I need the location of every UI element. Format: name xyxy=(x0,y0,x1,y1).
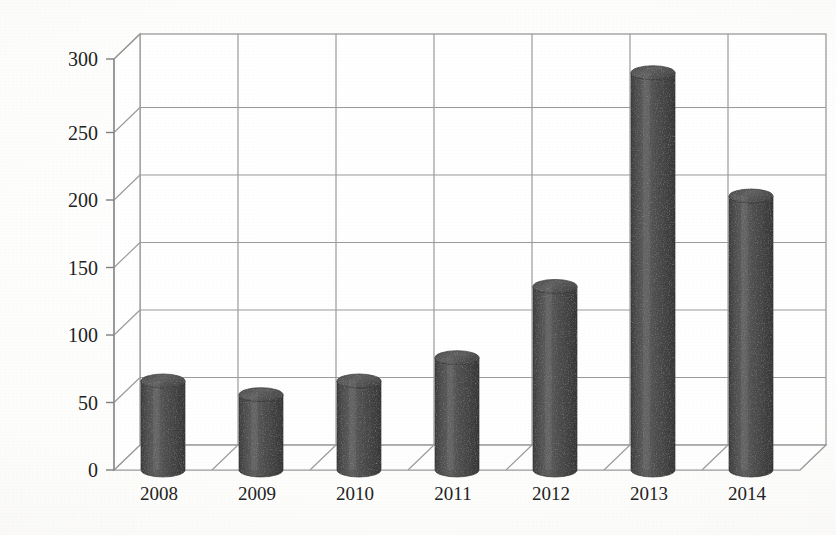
bar-cylinder xyxy=(435,351,479,477)
cylinder-top-cap xyxy=(631,66,675,80)
cylinder-body xyxy=(729,196,773,477)
y-axis-ticks xyxy=(106,59,114,470)
y-tick-label-150: 150 xyxy=(68,257,98,279)
cylinder-highlight xyxy=(741,196,748,470)
bar-cylinder xyxy=(337,374,381,477)
cylinder-highlight xyxy=(447,358,454,470)
cylinder-top-cap xyxy=(239,388,283,402)
y-tick-label-100: 100 xyxy=(68,324,98,346)
chart-figure: 0 50 100 150 200 250 300 200820092010201… xyxy=(0,0,836,535)
bar-cylinder xyxy=(729,189,773,477)
plot-back-wall xyxy=(140,34,826,445)
bar-cylinder xyxy=(141,374,185,477)
cylinder-highlight xyxy=(153,381,160,470)
x-tick-label: 2013 xyxy=(630,483,668,504)
y-axis-tick-labels: 0 50 100 150 200 250 300 xyxy=(68,48,98,481)
bar-chart-3d: 0 50 100 150 200 250 300 200820092010201… xyxy=(0,0,836,535)
x-tick-label: 2008 xyxy=(140,483,178,504)
y-tick-label-250: 250 xyxy=(68,122,98,144)
cylinder-highlight xyxy=(349,381,356,470)
cylinder-highlight xyxy=(545,286,552,470)
cylinder-top-cap xyxy=(533,279,577,293)
cylinder-highlight xyxy=(643,73,650,470)
cylinder-top-cap xyxy=(337,374,381,388)
cylinder-body xyxy=(239,395,283,477)
cylinder-highlight xyxy=(251,395,258,470)
cylinder-top-cap xyxy=(729,189,773,203)
bar-cylinder xyxy=(533,279,577,477)
x-tick-label: 2012 xyxy=(532,483,570,504)
x-tick-label: 2014 xyxy=(728,483,767,504)
y-axis-wall xyxy=(106,34,140,470)
y-tick-label-0: 0 xyxy=(88,459,98,481)
x-tick-label: 2011 xyxy=(434,483,471,504)
x-tick-label: 2009 xyxy=(238,483,276,504)
x-axis-tick-labels: 2008200920102011201220132014 xyxy=(140,483,767,504)
x-tick-label: 2010 xyxy=(336,483,374,504)
bar-cylinder xyxy=(239,388,283,477)
back-wall-panel xyxy=(140,34,826,445)
cylinder-top-cap xyxy=(141,374,185,388)
y-tick-label-50: 50 xyxy=(78,392,98,414)
bar-cylinder xyxy=(631,66,675,477)
cylinder-top-cap xyxy=(435,351,479,365)
y-tick-label-300: 300 xyxy=(68,48,98,70)
cylinder-body xyxy=(141,381,185,477)
left-wall-panel xyxy=(114,34,140,470)
cylinder-body xyxy=(435,358,479,477)
cylinder-body xyxy=(631,73,675,477)
y-tick-label-200: 200 xyxy=(68,189,98,211)
cylinder-body xyxy=(337,381,381,477)
cylinder-body xyxy=(533,286,577,477)
